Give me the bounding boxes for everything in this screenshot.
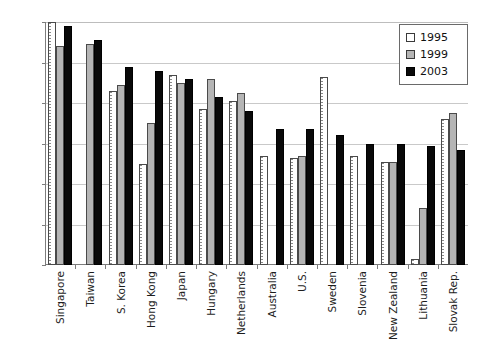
- bar-2003: [155, 71, 163, 265]
- x-tick-label: Sweden: [326, 271, 338, 313]
- x-label-cell: Hungary: [196, 265, 226, 352]
- legend-item-1999[interactable]: 1999: [406, 46, 462, 63]
- bar-group: [226, 22, 256, 265]
- x-tick-label: Singapore: [54, 271, 66, 324]
- bar-2003: [336, 135, 344, 265]
- x-tick-label: Slovenia: [356, 271, 368, 316]
- bar-1999: [56, 46, 64, 265]
- bar-1995: [199, 109, 207, 265]
- bar-1999: [207, 79, 215, 265]
- x-tick-label: New Zealand: [387, 271, 399, 340]
- x-tick-label: Taiwan: [84, 271, 96, 307]
- bar-1995: [350, 156, 358, 265]
- bar-1999: [237, 93, 245, 265]
- bar-group: [257, 22, 287, 265]
- legend-label: 1999: [420, 48, 448, 61]
- x-tick-label: Netherlands: [235, 271, 247, 335]
- legend-label: 2003: [420, 65, 448, 78]
- x-label-cell: Slovenia: [347, 265, 377, 352]
- x-label-cell: Hong Kong: [136, 265, 166, 352]
- bar-2003: [94, 40, 102, 265]
- bar-group: [317, 22, 347, 265]
- bar-1999: [147, 123, 155, 265]
- bar-group: [45, 22, 75, 265]
- legend-swatch-icon: [406, 50, 415, 59]
- bar-1995: [381, 162, 389, 265]
- bar-1999: [449, 113, 457, 265]
- bar-1995: [169, 75, 177, 265]
- x-tick-label: U.S.: [296, 271, 308, 292]
- bar-2003: [215, 97, 223, 265]
- x-label-cell: Taiwan: [75, 265, 105, 352]
- bar-2003: [306, 129, 314, 265]
- x-tick-label: Australia: [266, 271, 278, 317]
- legend: 199519992003: [399, 24, 468, 85]
- bar-2003: [64, 26, 72, 265]
- bar-1995: [441, 119, 449, 265]
- x-tick-label: Lithuania: [417, 271, 429, 320]
- bar-1995: [139, 164, 147, 265]
- bar-1999: [177, 83, 185, 265]
- bar-1995: [109, 91, 117, 265]
- bar-1999: [389, 162, 397, 265]
- bar-1995: [229, 101, 237, 265]
- x-tick-label: Japan: [175, 271, 187, 300]
- bar-group: [105, 22, 135, 265]
- bar-chart: 460480500520540560580 SingaporeTaiwanS. …: [0, 0, 480, 352]
- legend-label: 1995: [420, 31, 448, 44]
- bar-2003: [245, 111, 253, 265]
- bar-2003: [185, 79, 193, 265]
- x-tick-label: Hungary: [205, 271, 217, 316]
- x-tick-label: Hong Kong: [145, 271, 157, 328]
- x-label-cell: Lithuania: [408, 265, 438, 352]
- bar-group: [287, 22, 317, 265]
- bar-group: [75, 22, 105, 265]
- bar-group: [136, 22, 166, 265]
- bar-1995: [320, 77, 328, 265]
- bar-2003: [427, 146, 435, 265]
- bar-group: [347, 22, 377, 265]
- bar-2003: [457, 150, 465, 265]
- x-tick-label: Slovak Rep.: [447, 271, 459, 332]
- x-label-cell: Slovak Rep.: [438, 265, 468, 352]
- bar-1999: [298, 156, 306, 265]
- x-tick-label: S. Korea: [115, 271, 127, 314]
- x-label-cell: Sweden: [317, 265, 347, 352]
- x-label-cell: S. Korea: [105, 265, 135, 352]
- legend-item-1995[interactable]: 1995: [406, 29, 462, 46]
- bar-1999: [117, 85, 125, 265]
- bar-2003: [276, 129, 284, 265]
- bar-1999: [86, 44, 94, 265]
- bar-2003: [366, 144, 374, 266]
- bar-1995: [260, 156, 268, 265]
- bar-1995: [48, 22, 56, 265]
- x-label-cell: Australia: [257, 265, 287, 352]
- legend-item-2003[interactable]: 2003: [406, 63, 462, 80]
- x-label-cell: Singapore: [45, 265, 75, 352]
- x-label-cell: Netherlands: [226, 265, 256, 352]
- bar-1995: [290, 158, 298, 265]
- bar-group: [166, 22, 196, 265]
- x-label-cell: U.S.: [287, 265, 317, 352]
- x-axis-labels: SingaporeTaiwanS. KoreaHong KongJapanHun…: [45, 265, 468, 352]
- x-label-cell: New Zealand: [377, 265, 407, 352]
- bar-2003: [125, 67, 133, 265]
- legend-swatch-icon: [406, 67, 415, 76]
- bar-1999: [419, 208, 427, 265]
- bar-2003: [397, 144, 405, 266]
- bar-group: [196, 22, 226, 265]
- x-label-cell: Japan: [166, 265, 196, 352]
- legend-swatch-icon: [406, 33, 415, 42]
